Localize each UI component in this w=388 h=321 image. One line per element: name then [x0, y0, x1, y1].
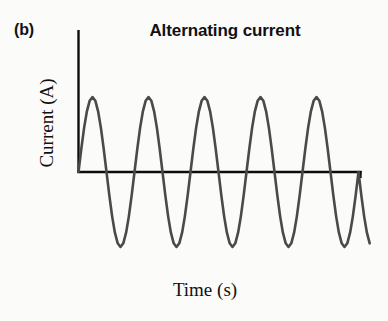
figure-panel: (b) Alternating current Current (A) Time…: [0, 0, 388, 321]
plot-area: [0, 0, 388, 321]
